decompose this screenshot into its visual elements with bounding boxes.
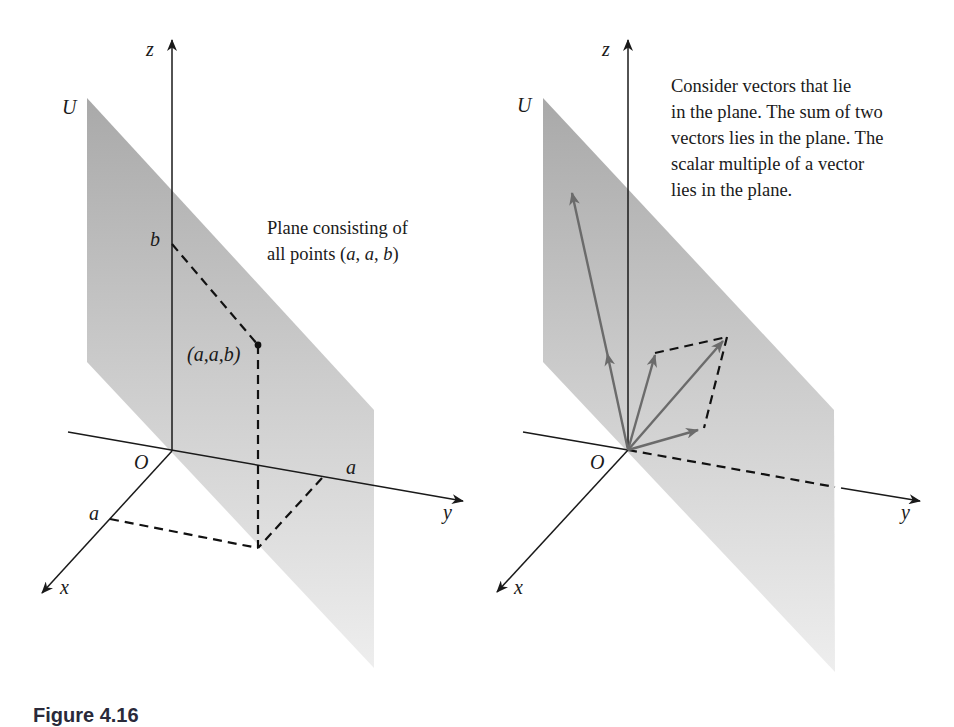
- left-figure: z U b (a,a,b) O a a y x Plane consisting…: [42, 38, 463, 668]
- plane-description-line2-prefix: all points (: [267, 244, 346, 265]
- point-label: (a,a,b): [187, 343, 241, 366]
- a-on-x-label: a: [89, 502, 99, 524]
- plane-description-sep1: ,: [355, 244, 364, 264]
- a-on-y-label: a: [346, 456, 356, 478]
- origin-label: O: [134, 451, 148, 473]
- plane-u: [87, 98, 374, 668]
- y-axis-label: y: [899, 501, 910, 524]
- z-axis-label: z: [601, 38, 610, 60]
- plane-description-a1: a: [346, 244, 355, 264]
- z-axis-label: z: [145, 38, 154, 60]
- b-label: b: [150, 228, 160, 250]
- x-axis: [42, 451, 172, 593]
- vectors-description: Consider vectors that lie in the plane. …: [671, 76, 888, 200]
- plane-label-u: U: [517, 94, 533, 116]
- plane-description-a2: a: [365, 244, 374, 264]
- plane-description-suffix: ): [392, 244, 398, 265]
- vectors-description-line3: vectors lies in the plane. The: [671, 128, 883, 148]
- point-aab-dot: [255, 342, 262, 349]
- x-axis-label: x: [513, 576, 523, 598]
- right-figure: z U O x y Consider vectors that lie in t…: [497, 38, 920, 672]
- origin-label: O: [590, 451, 604, 473]
- plane-label-u: U: [62, 96, 78, 118]
- x-axis-label: x: [59, 576, 69, 598]
- y-axis-front: [841, 488, 920, 501]
- plane-description: Plane consisting of all points (a, a, b): [267, 218, 412, 265]
- figure-caption: Figure 4.16: [33, 704, 139, 727]
- vectors-description-line4: scalar multiple of a vector: [671, 154, 864, 174]
- dashed-ax-to-floor: [110, 519, 258, 548]
- x-axis: [497, 450, 628, 592]
- plane-description-line1: Plane consisting of: [267, 218, 409, 238]
- plane-description-sep2: ,: [374, 244, 383, 264]
- plane-description-b: b: [383, 244, 392, 264]
- vectors-description-line2: in the plane. The sum of two: [671, 102, 883, 122]
- y-axis-label: y: [441, 501, 452, 524]
- vectors-description-line1: Consider vectors that lie: [671, 76, 851, 96]
- vectors-description-line5: lies in the plane.: [671, 180, 792, 200]
